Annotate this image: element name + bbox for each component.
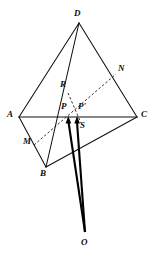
projection-rays (66, 116, 85, 232)
point-label-P: P (61, 102, 67, 111)
point-label-C: C (141, 110, 147, 119)
ray-O-P (69, 122, 86, 232)
edge-D-B (46, 23, 79, 167)
point-label-A: A (7, 110, 13, 119)
point-label-S: S (80, 121, 85, 130)
construction-lines (34, 74, 116, 145)
dashed-M-N (34, 74, 116, 145)
point-label-R: R (60, 80, 66, 89)
point-label-O: O (81, 238, 88, 247)
geometry-canvas (0, 0, 155, 255)
edge-B-C (46, 117, 137, 167)
point-label-B: B (40, 169, 46, 178)
ray-O-Pprime (77, 122, 85, 232)
geometry-figure: D N R A P P' C M S B O (0, 0, 155, 255)
point-label-N: N (118, 64, 125, 73)
edge-D-C (79, 23, 137, 117)
point-label-M: M (23, 137, 31, 146)
edge-D-A (19, 23, 79, 117)
point-label-P-prime: P' (78, 102, 86, 111)
point-label-D: D (74, 9, 81, 18)
